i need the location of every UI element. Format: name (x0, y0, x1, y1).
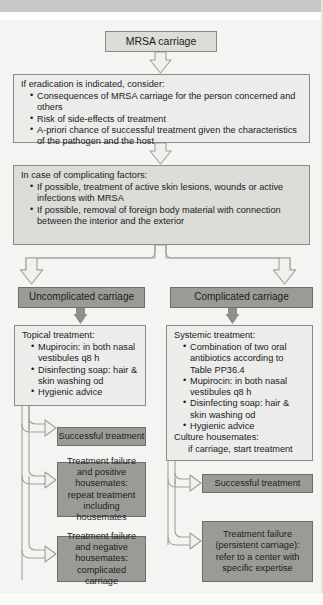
node-eradication-considerations[interactable]: If eradication is indicated, consider: C… (13, 74, 310, 143)
arrow-branch-right-to-systemic (226, 308, 240, 324)
systemic-heading: Systemic treatment: (174, 330, 306, 341)
arrow-start-to-eradication (150, 52, 171, 73)
node-topical-treatment[interactable]: Topical treatment: Mupirocin: in both na… (14, 325, 146, 406)
node-left-outcome-failure-negative-housemates[interactable]: Treatment failure and negative housemate… (57, 536, 146, 582)
list-item: Combination of two oral antibiotics acco… (183, 342, 306, 376)
node-branch-complicated-carriage[interactable]: Complicated carriage (170, 287, 313, 308)
list-item: Hygienic advice (31, 387, 139, 398)
connector-split-to-branches (21, 245, 296, 284)
connector-right-outcomes (168, 461, 201, 549)
complicating-bullet-list: If possible, treatment of active skin le… (21, 182, 303, 227)
complicating-heading: In case of complicating factors: (21, 170, 303, 181)
arrow-branch-left-to-topical (74, 308, 88, 324)
top-banner-band (0, 0, 323, 12)
node-left-outcome-failure-positive-housemates[interactable]: Treatment failure and positive housemate… (57, 462, 146, 517)
list-item: A-priori chance of successful treatment … (30, 125, 303, 147)
bottom-white-gap (0, 593, 323, 605)
node-complicating-factors[interactable]: In case of complicating factors: If poss… (13, 165, 310, 245)
list-item: If possible, removal of foreign body mat… (30, 205, 303, 227)
list-item: Disinfecting soap: hair & skin washing o… (31, 365, 139, 387)
systemic-footer-heading: Culture housemates: (174, 432, 306, 443)
node-right-outcome-failure-persistent-carriage[interactable]: Treatment failure (persistent carriage):… (202, 521, 313, 582)
topical-heading: Topical treatment: (22, 330, 139, 341)
list-item: Hygienic advice (183, 421, 306, 432)
branch-left-label: Uncomplicated carriage (29, 291, 134, 303)
topical-bullet-list: Mupirocin: in both nasal vestibules q8 h… (22, 342, 139, 398)
left-outcome-2-label: Treatment failure and positive housemate… (61, 456, 142, 523)
left-outcome-3-label: Treatment failure and negative housemate… (61, 531, 142, 587)
branch-right-label: Complicated carriage (194, 291, 289, 303)
right-outcome-2-label: Treatment failure (persistent carriage):… (206, 529, 309, 574)
list-item: Disinfecting soap: hair & skin washing o… (183, 398, 306, 420)
eradication-heading: If eradication is indicated, consider: (21, 79, 303, 90)
right-outcome-1-label: Successful treatment (215, 478, 301, 489)
node-start-label: MRSA carriage (126, 35, 197, 48)
eradication-bullet-list: Consequences of MRSA carriage for the pe… (21, 91, 303, 147)
systemic-footer-line: if carriage, start treatment (174, 444, 306, 455)
list-item: Risk of side-effects of treatment (30, 114, 303, 125)
node-systemic-treatment[interactable]: Systemic treatment: Combination of two o… (166, 325, 313, 461)
left-outcome-1-label: Successful treatment (59, 431, 145, 442)
node-left-outcome-successful-treatment[interactable]: Successful treatment (57, 427, 146, 446)
connector-left-outcomes (22, 406, 56, 580)
list-item: Consequences of MRSA carriage for the pe… (30, 91, 303, 113)
systemic-bullet-list: Combination of two oral antibiotics acco… (174, 342, 306, 432)
node-branch-uncomplicated-carriage[interactable]: Uncomplicated carriage (18, 287, 145, 308)
flowchart-canvas: MRSA carriage If eradication is indicate… (0, 0, 323, 605)
node-right-outcome-successful-treatment[interactable]: Successful treatment (202, 474, 313, 493)
list-item: Mupirocin: in both nasal vestibules q8 h (31, 342, 139, 364)
list-item: If possible, treatment of active skin le… (30, 182, 303, 204)
list-item: Mupirocin: in both nasal vestibules q8 h (183, 376, 306, 398)
top-white-gap (0, 12, 323, 20)
node-start-mrsa-carriage[interactable]: MRSA carriage (105, 31, 217, 52)
